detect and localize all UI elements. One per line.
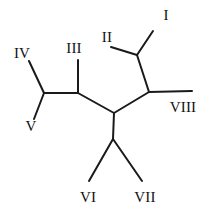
taxon-label-v: V [25, 119, 36, 134]
taxon-label-i: I [163, 8, 168, 23]
taxon-label-viii: VIII [170, 100, 197, 115]
branch-internal-right-up [137, 55, 149, 92]
branch-internal-center-left [78, 93, 114, 113]
branch-viii [149, 91, 192, 92]
taxon-label-iv: IV [14, 46, 30, 61]
branch-ii [111, 47, 137, 55]
taxon-label-vii: VII [134, 190, 155, 205]
branch-internal-center-down [113, 113, 114, 139]
taxon-label-iii: III [66, 41, 82, 56]
branch-i [137, 31, 153, 55]
branch-internal-center-right [114, 92, 149, 113]
branch-v [34, 93, 44, 119]
branch-iv [29, 61, 44, 93]
taxon-label-ii: II [102, 30, 112, 45]
branch-vi [89, 139, 113, 181]
taxon-label-vi: VI [80, 190, 96, 205]
branch-group [29, 31, 192, 181]
phylogenetic-tree-figure: I II III IV V VI VII VIII [0, 0, 211, 217]
branch-vii [113, 139, 142, 181]
